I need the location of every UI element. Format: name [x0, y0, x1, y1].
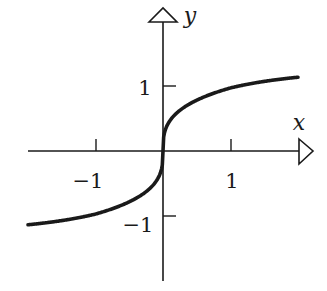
y-tick-label-1: 1 [138, 76, 151, 100]
y-axis-arrow-icon [149, 8, 177, 22]
x-tick-label-neg1: −1 [73, 169, 104, 193]
cube-root-plot: −1 1 1 −1 x y [0, 0, 327, 291]
x-axis-label: x [293, 110, 306, 135]
x-tick-label-1: 1 [225, 169, 238, 193]
y-tick-label-neg1: −1 [123, 213, 154, 237]
x-axis-arrow-icon [299, 139, 313, 164]
y-axis-label: y [183, 3, 197, 28]
